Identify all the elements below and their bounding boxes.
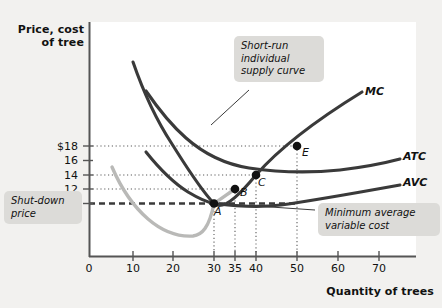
curve-mc — [133, 62, 362, 206]
x-tick-label-0: 0 — [74, 262, 104, 275]
y-axis-title-line1: Price, cost — [6, 24, 84, 37]
y-tick-label-14: 14 — [36, 169, 78, 182]
curve-label-atc: ATC — [403, 150, 426, 163]
callout-shutdown-line2: price — [11, 208, 75, 221]
data-point-b — [231, 185, 240, 194]
point-label-e: E — [302, 146, 309, 159]
callout-minavc-line1: Minimum average — [325, 207, 433, 220]
data-point-e — [293, 142, 302, 151]
curve-label-mc: MC — [365, 85, 384, 98]
y-tick-marks — [83, 146, 93, 204]
figure: Price, cost of tree Quantity of trees $1… — [0, 0, 442, 308]
callout-shutdown-line1: Shut-down — [11, 195, 75, 208]
point-label-b: B — [240, 186, 248, 199]
callout-minavc-line2: variable cost — [325, 220, 433, 233]
y-tick-label-16: 16 — [36, 154, 78, 167]
y-axis-title: Price, cost of tree — [6, 24, 84, 49]
leader-line-supply-curve — [211, 90, 249, 125]
x-tick-label-70: 70 — [364, 262, 394, 275]
curve-atc — [146, 91, 400, 172]
x-tick-label-60: 60 — [323, 262, 353, 275]
callout-supply-line1: Short-run — [241, 40, 317, 53]
x-tick-label-50: 50 — [282, 262, 312, 275]
y-axis-title-line2: of tree — [6, 37, 84, 50]
callout-shut-down-price: Shut-down price — [4, 191, 82, 224]
x-tick-label-20: 20 — [158, 262, 188, 275]
curve-short-run-supply — [112, 167, 214, 236]
callout-short-run-supply-curve: Short-run individual supply curve — [234, 36, 324, 82]
callout-minimum-average-variable-cost: Minimum average variable cost — [318, 203, 440, 236]
curve-label-avc: AVC — [403, 176, 427, 189]
x-axis-title: Quantity of trees — [274, 286, 434, 299]
point-label-a: A — [214, 205, 222, 218]
y-tick-label-18: $18 — [36, 140, 78, 153]
callout-supply-line2: individual — [241, 53, 317, 66]
x-tick-label-40: 40 — [241, 262, 271, 275]
x-tick-label-10: 10 — [118, 262, 148, 275]
callout-supply-line3: supply curve — [241, 65, 317, 78]
point-label-c: C — [258, 176, 266, 189]
